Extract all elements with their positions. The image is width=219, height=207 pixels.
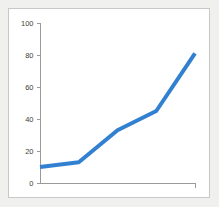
y-axis: 020406080100 bbox=[21, 19, 41, 188]
x-axis bbox=[41, 184, 196, 188]
y-axis-tick-label: 0 bbox=[29, 179, 33, 188]
y-axis-tick-label: 80 bbox=[25, 51, 33, 60]
y-axis-tick-label: 40 bbox=[25, 115, 33, 124]
series-line bbox=[40, 53, 195, 167]
line-chart: 020406080100 bbox=[9, 9, 211, 199]
y-axis-tick-label: 60 bbox=[25, 83, 33, 92]
y-axis-tick-label: 100 bbox=[21, 19, 34, 28]
y-axis-tick-label: 20 bbox=[25, 147, 33, 156]
chart-card: 020406080100 bbox=[8, 8, 210, 198]
data-series-group bbox=[40, 53, 195, 167]
